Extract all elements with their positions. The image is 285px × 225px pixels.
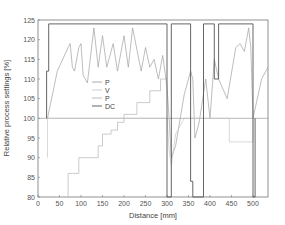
x-tick-label: 350 — [183, 200, 195, 207]
legend-label: V — [105, 87, 110, 94]
y-tick-label: 95 — [27, 135, 35, 142]
x-tick-label: 200 — [118, 200, 130, 207]
legend-label: P — [105, 95, 110, 102]
legend-label: DC — [105, 103, 115, 110]
series-line-1 — [48, 118, 254, 165]
y-tick-label: 85 — [27, 174, 35, 181]
line-chart: 0501001502002503003504004505008085909510… — [0, 0, 285, 225]
y-tick-label: 100 — [23, 115, 35, 122]
axis-ticks: 0501001502002503003504004505008085909510… — [23, 17, 259, 208]
y-tick-label: 120 — [23, 36, 35, 43]
series-line-3 — [47, 24, 256, 197]
x-tick-label: 300 — [161, 200, 173, 207]
y-tick-label: 125 — [23, 17, 35, 24]
x-tick-label: 250 — [140, 200, 152, 207]
y-tick-label: 90 — [27, 154, 35, 161]
x-tick-label: 150 — [97, 200, 109, 207]
y-tick-label: 115 — [24, 56, 35, 63]
x-tick-label: 400 — [204, 200, 216, 207]
series-group — [47, 24, 268, 197]
legend: PVPDC — [92, 79, 115, 110]
x-tick-label: 450 — [226, 200, 238, 207]
y-tick-label: 105 — [23, 95, 35, 102]
y-tick-label: 80 — [27, 194, 35, 201]
legend-label: P — [105, 79, 110, 86]
x-tick-label: 100 — [75, 200, 87, 207]
x-tick-label: 50 — [56, 200, 64, 207]
x-tick-label: 500 — [247, 200, 259, 207]
y-tick-label: 110 — [24, 76, 35, 83]
plot-frame — [38, 20, 268, 197]
x-axis-label: Distance [mm] — [129, 211, 177, 220]
y-axis-label: Relative process settings [%] — [2, 60, 11, 156]
series-line-0 — [48, 28, 269, 158]
series-line-2 — [68, 79, 167, 197]
x-tick-label: 0 — [36, 200, 40, 207]
